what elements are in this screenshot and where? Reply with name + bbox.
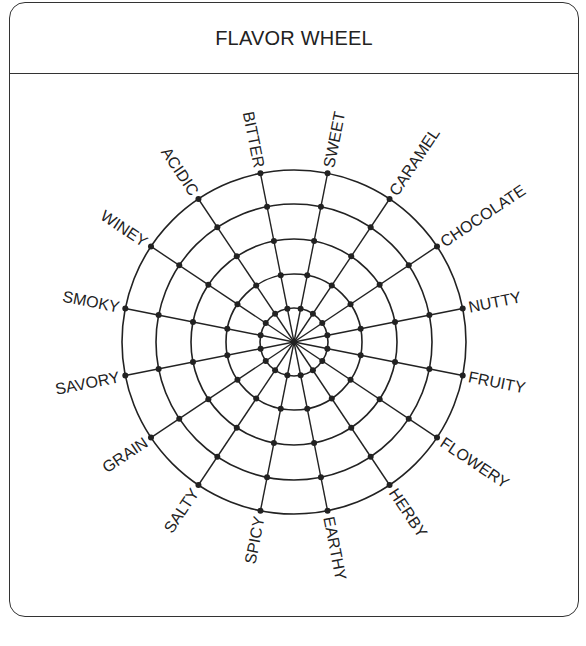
node-dot [311,440,317,446]
node-dot [310,311,316,317]
node-dot [190,319,196,325]
label-nutty: NUTTY [467,288,523,315]
node-dot [324,346,330,352]
node-dot [205,396,211,402]
flavor-wheel-diagram: SWEETCARAMELCHOCOLATENUTTYFRUITYFLOWERYH… [0,0,586,646]
node-dot [377,282,383,288]
node-dot [368,454,374,460]
node-dot [392,359,398,365]
node-dot [257,170,263,176]
label-winey: WINEY [98,207,151,250]
node-dot [284,306,290,312]
node-dot [234,425,240,431]
label-spicy: SPICY [242,515,268,566]
node-dot [234,301,240,307]
node-dot [387,196,393,202]
node-dot [434,435,440,441]
label-bitter: BITTER [240,110,268,169]
node-dot [348,425,354,431]
node-dot [368,224,374,230]
node-dot [460,373,466,379]
label-earthy: EARTHY [320,515,349,582]
node-dot [264,474,270,480]
node-dot [205,282,211,288]
node-dot [304,406,310,412]
node-dot [318,204,324,210]
node-dot [176,262,182,268]
label-caramel: CARAMEL [386,125,443,199]
node-dot [156,312,162,318]
node-dot [278,406,284,412]
node-dot [224,352,230,358]
node-dot [298,372,304,378]
node-dot [195,482,201,488]
node-dot [358,352,364,358]
node-dot [234,377,240,383]
label-herby: HERBY [386,485,431,541]
node-dot [271,238,277,244]
node-dot [311,238,317,244]
node-dot [358,326,364,332]
node-dot [406,416,412,422]
node-dot [426,312,432,318]
node-dot [122,305,128,311]
node-dot [318,474,324,480]
node-dot [264,204,270,210]
node-dot [387,482,393,488]
node-dot [392,319,398,325]
label-grain: GRAIN [99,434,151,476]
center-hub [291,339,297,345]
label-smoky: SMOKY [61,288,121,316]
node-dot [329,282,335,288]
node-dot [324,332,330,338]
node-dot [272,367,278,373]
node-dot [377,396,383,402]
node-dot [271,440,277,446]
node-dot [348,253,354,259]
node-dot [348,301,354,307]
node-dot [258,332,264,338]
node-dot [298,306,304,312]
node-dot [195,196,201,202]
node-dot [190,359,196,365]
node-dot [176,416,182,422]
node-dot [325,508,331,514]
node-dot [329,396,335,402]
node-dot [272,311,278,317]
node-dot [460,305,466,311]
label-sweet: SWEET [320,110,348,169]
node-dot [253,396,259,402]
node-dot [348,377,354,383]
node-dot [258,346,264,352]
node-dot [122,373,128,379]
node-dot [253,282,259,288]
node-dot [319,320,325,326]
node-dot [263,358,269,364]
label-salty: SALTY [161,485,203,536]
node-dot [304,272,310,278]
node-dot [214,224,220,230]
node-dot [148,243,154,249]
node-dot [263,320,269,326]
label-flowery: FLOWERY [437,434,512,492]
node-dot [214,454,220,460]
node-dot [325,170,331,176]
label-acidic: ACIDIC [158,144,202,199]
node-dot [156,366,162,372]
node-dot [278,272,284,278]
node-dot [234,253,240,259]
label-chocolate: CHOCOLATE [437,181,528,250]
label-fruity: FRUITY [467,368,527,396]
node-dot [434,243,440,249]
node-dot [310,367,316,373]
node-dot [406,262,412,268]
node-dot [426,366,432,372]
node-dot [319,358,325,364]
node-dot [148,435,154,441]
label-savory: SAVORY [54,368,122,397]
node-dot [224,326,230,332]
node-dot [284,372,290,378]
node-dot [257,508,263,514]
